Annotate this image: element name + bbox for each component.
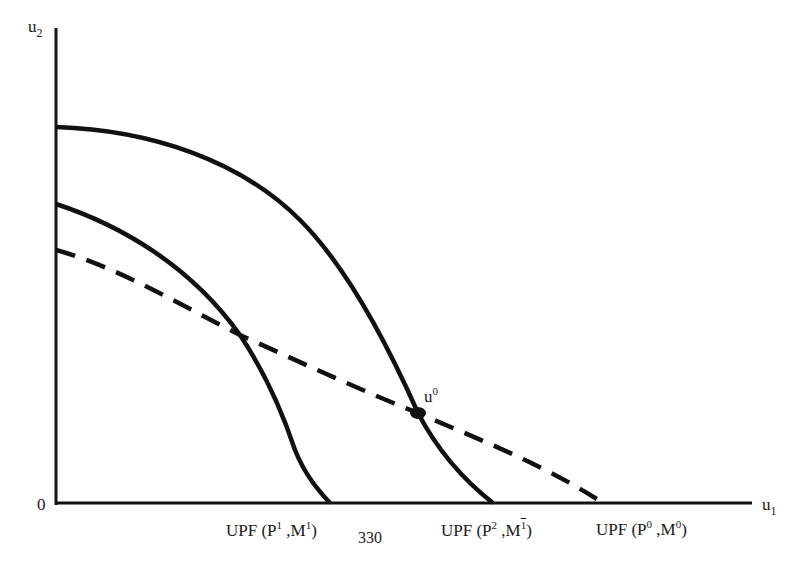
point-u0-label: u0 — [424, 386, 438, 405]
label-upf-p0-m0: UPF (P0 ,M0) — [596, 519, 687, 538]
curve-upf-p1-m1 — [56, 204, 330, 503]
curve-upf-p2-m1bar — [56, 127, 493, 503]
point-u0-marker — [410, 407, 426, 419]
x-axis-label: u1 — [762, 496, 777, 517]
diagram-canvas — [0, 0, 810, 580]
y-axis-label: u2 — [28, 18, 43, 39]
label-upf-p2-m1bar: UPF (P2 ,M1) — [441, 520, 532, 539]
origin-label: 0 — [37, 496, 46, 513]
label-upf-p1-m1: UPF (P1 ,M1) — [226, 520, 317, 539]
page-number: 330 — [358, 530, 382, 546]
curve-upf-p0-m0 — [56, 250, 603, 503]
upf-diagram: u2 u1 0 u0 UPF (P1 ,M1) UPF (P2 ,M1) UPF… — [0, 0, 810, 580]
